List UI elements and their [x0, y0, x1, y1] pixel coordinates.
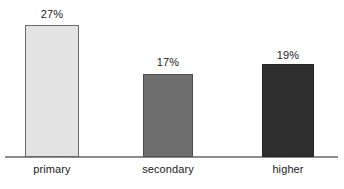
bar-chart: 27% 17% 19% primary secondary higher: [0, 0, 344, 189]
plot-area: 27% 17% 19% primary secondary higher: [0, 0, 344, 189]
bar-higher[interactable]: [262, 64, 314, 157]
category-label-primary: primary: [16, 163, 88, 175]
bar-value-label-primary: 27%: [25, 8, 79, 20]
bar-primary[interactable]: [25, 25, 79, 157]
category-label-secondary: secondary: [128, 163, 208, 175]
bar-value-label-higher: 19%: [262, 49, 314, 61]
bar-secondary[interactable]: [143, 74, 193, 157]
category-label-higher: higher: [254, 163, 322, 175]
bar-value-label-secondary: 17%: [143, 56, 193, 68]
